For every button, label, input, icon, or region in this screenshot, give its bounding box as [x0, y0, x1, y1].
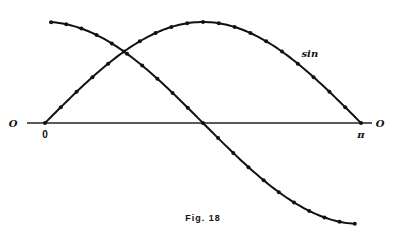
- series-point-cos: [110, 41, 114, 45]
- series-point-sin: [43, 121, 47, 125]
- series-point-cos: [216, 136, 220, 140]
- series-point-cos: [322, 215, 326, 219]
- series-point-sin: [217, 21, 221, 25]
- series-point-sin: [327, 90, 331, 94]
- series-point-sin: [106, 62, 110, 66]
- series-point-sin: [185, 21, 189, 25]
- axis-right-origin-label: O: [376, 118, 385, 129]
- series-point-sin: [201, 20, 205, 24]
- series-point-cos: [262, 178, 266, 182]
- series-label-sin: sin: [301, 48, 318, 59]
- series-point-sin: [75, 90, 79, 94]
- series-point-sin: [359, 121, 363, 125]
- series-point-cos: [277, 190, 281, 194]
- series-point-cos: [64, 22, 68, 26]
- series-point-cos: [140, 64, 144, 68]
- series-point-cos: [171, 91, 175, 95]
- figure-caption: Fig. 18: [185, 213, 221, 223]
- series-point-cos: [155, 77, 159, 81]
- series-point-sin: [280, 50, 284, 54]
- series-point-cos: [49, 20, 53, 24]
- series-point-cos: [95, 33, 99, 37]
- series-point-cos: [307, 209, 311, 213]
- series-point-cos: [79, 27, 83, 31]
- series-point-sin: [312, 75, 316, 79]
- series-point-cos: [292, 200, 296, 204]
- series-point-sin: [248, 31, 252, 35]
- series-point-cos: [125, 52, 129, 56]
- series-point-sin: [138, 39, 142, 43]
- series-point-sin: [343, 105, 347, 109]
- series-point-sin: [154, 31, 158, 35]
- series-line-sin: [45, 22, 361, 123]
- series-point-cos: [353, 222, 357, 226]
- series-point-sin: [90, 75, 94, 79]
- series-point-sin: [296, 62, 300, 66]
- x-tick-label-zero: 0: [42, 129, 48, 140]
- series-point-cos: [201, 121, 205, 125]
- series-point-cos: [246, 165, 250, 169]
- series-point-sin: [169, 25, 173, 29]
- series-point-sin: [264, 39, 268, 43]
- series-point-cos: [338, 220, 342, 224]
- x-tick-label-pi: π: [356, 129, 365, 140]
- series-point-cos: [231, 151, 235, 155]
- series-point-cos: [186, 106, 190, 110]
- axis-left-origin-label: O: [9, 118, 18, 129]
- series-point-sin: [233, 25, 237, 29]
- figure: O O 0 π sin Fig. 18: [0, 0, 398, 243]
- series-point-sin: [59, 105, 63, 109]
